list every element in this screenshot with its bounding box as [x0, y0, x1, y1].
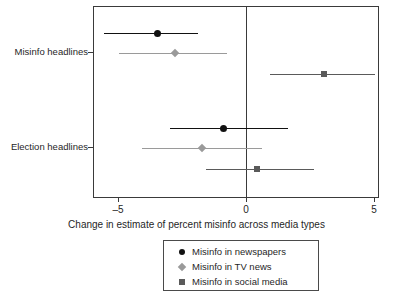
confidence-interval-line — [170, 128, 288, 129]
coefficient-plot-figure: Misinfo headlines Election headlines –5 … — [0, 0, 393, 294]
estimate-marker-square — [254, 166, 261, 173]
x-tick-mark-pos5 — [374, 198, 375, 202]
y-axis-labels: Misinfo headlines Election headlines — [0, 0, 88, 200]
x-tick-label-zero: 0 — [243, 204, 249, 215]
x-tick-mark-zero — [246, 198, 247, 202]
circle-marker-icon — [176, 246, 188, 258]
y-tick-label-election-headlines: Election headlines — [11, 141, 88, 152]
legend-label-social-media: Misinfo in social media — [192, 276, 288, 287]
diamond-marker-icon — [176, 261, 188, 273]
plot-area — [93, 6, 379, 198]
square-marker-icon — [176, 276, 188, 288]
x-tick-label-neg5: –5 — [112, 204, 123, 215]
legend-item-newspapers[interactable]: Misinfo in newspapers — [164, 244, 318, 259]
legend-label-newspapers: Misinfo in newspapers — [192, 246, 286, 257]
legend-item-tv-news[interactable]: Misinfo in TV news — [164, 259, 318, 274]
estimate-marker-diamond — [198, 144, 206, 152]
confidence-interval-line — [104, 33, 199, 34]
x-tick-label-pos5: 5 — [371, 204, 377, 215]
estimate-marker-diamond — [171, 49, 179, 57]
estimate-marker-circle — [220, 125, 227, 132]
legend: Misinfo in newspapers Misinfo in TV news… — [163, 240, 319, 291]
estimate-marker-square — [321, 71, 328, 78]
y-tick-label-misinfo-headlines: Misinfo headlines — [15, 46, 88, 57]
legend-item-social-media[interactable]: Misinfo in social media — [164, 274, 318, 289]
estimate-marker-circle — [154, 30, 161, 37]
x-tick-mark-neg5 — [118, 198, 119, 202]
legend-label-tv-news: Misinfo in TV news — [192, 261, 272, 272]
x-axis-title: Change in estimate of percent misinfo ac… — [0, 219, 393, 230]
